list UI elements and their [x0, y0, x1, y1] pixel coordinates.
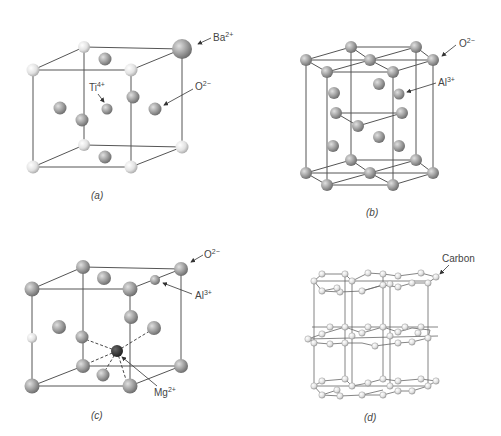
caption-d: (d) [364, 412, 376, 423]
label-ti: Ti4+ [89, 81, 105, 93]
panel-c-spinel [25, 255, 204, 394]
caption-b: (b) [366, 207, 378, 218]
panel-d-graphite [305, 265, 449, 399]
caption-c: (c) [91, 410, 103, 421]
label-mg: Mg2+ [154, 386, 176, 398]
label-o-a: O2− [195, 80, 211, 92]
panel-b-corundum [300, 41, 456, 191]
label-o-b: O2− [459, 37, 475, 49]
panel-a-perovskite [27, 38, 212, 174]
caption-a: (a) [91, 190, 103, 201]
label-al-b: Al3+ [438, 76, 455, 88]
label-al-c: Al3+ [195, 289, 212, 301]
label-o-c: O2− [204, 248, 220, 260]
label-ba: Ba2+ [213, 31, 233, 43]
crystal-structures-figure [0, 0, 501, 436]
label-carbon: Carbon [442, 254, 475, 264]
